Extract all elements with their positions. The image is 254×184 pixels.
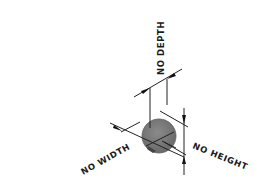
depth-arrow-left-icon xyxy=(141,88,150,94)
sphere-point xyxy=(142,119,176,153)
depth-label: NO DEPTH xyxy=(156,21,166,75)
height-label: NO HEIGHT xyxy=(191,141,249,172)
height-arrow-bottom-icon xyxy=(182,156,186,164)
point-dimension-diagram: NO DEPTH NO WIDTH NO HEIGHT xyxy=(0,0,254,184)
width-extension-line xyxy=(121,122,140,132)
depth-arrow-right-icon xyxy=(167,73,176,79)
height-arrow-top-icon xyxy=(182,115,186,124)
depth-dimension: NO DEPTH xyxy=(134,21,182,128)
width-label: NO WIDTH xyxy=(79,142,132,177)
